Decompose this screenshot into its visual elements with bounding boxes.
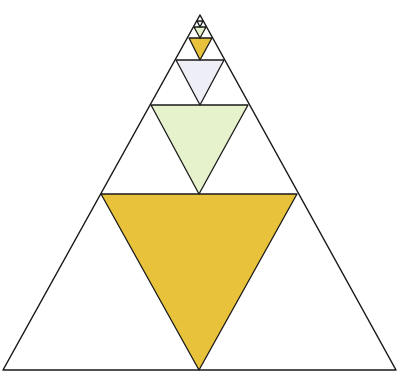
level-2-inverted-triangle [151, 105, 248, 194]
level-6-inverted-triangle [197, 21, 203, 27]
level-1-inverted-triangle [101, 194, 297, 370]
level-4-inverted-triangle [189, 38, 212, 60]
nested-triangles-diagram [0, 0, 402, 376]
diagram-canvas [0, 0, 402, 376]
level-3-inverted-triangle [176, 60, 224, 105]
level-5-inverted-triangle [194, 27, 206, 38]
